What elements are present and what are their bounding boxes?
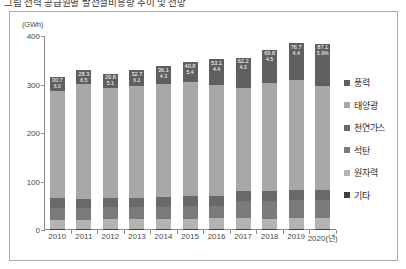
figure-caption-strip: 그림 전력 공급원별 발전설비용량 추이 및 전망 <box>0 0 406 9</box>
bar-segment-기타 <box>129 229 144 230</box>
bar-segment-원자력 <box>50 220 65 229</box>
x-tick-label: 2020(년) <box>308 232 338 243</box>
bar-segment-석탄 <box>156 207 171 220</box>
bar-stack: 53.14.4 <box>209 59 224 230</box>
legend-swatch-icon <box>344 170 350 176</box>
legend-item-천연가스[interactable]: 천연가스 <box>344 121 385 134</box>
bar-segment-원자력 <box>262 219 277 230</box>
bar-segment-태양광 <box>183 82 198 196</box>
legend-swatch-icon <box>344 80 350 86</box>
bar-segment-천연가스 <box>236 191 251 201</box>
y-tick-label: 300 <box>27 80 40 89</box>
bar-stack: 87.15.9% <box>315 44 330 230</box>
legend-swatch-icon <box>344 192 350 198</box>
bar-segment-기타 <box>236 229 251 230</box>
bar-segment-석탄 <box>289 200 304 218</box>
legend-item-기타[interactable]: 기타 <box>344 189 385 202</box>
bar-segment-풍력: 53.14.4 <box>209 59 224 85</box>
bar-segment-석탄 <box>262 201 277 219</box>
legend-swatch-icon <box>344 102 350 108</box>
bar-segment-풍력: 62.24.3 <box>236 58 251 88</box>
y-axis-unit-label: (GWh) <box>22 20 43 29</box>
legend-item-석탄[interactable]: 석탄 <box>344 144 385 157</box>
chart-figure: 그림 전력 공급원별 발전설비용량 추이 및 전망 (GWh) 01002003… <box>0 0 406 269</box>
bar-share-label: 6.5 <box>80 78 87 83</box>
bar-stack: 36.14.3 <box>156 66 171 230</box>
y-tick-mark <box>41 230 45 231</box>
bar-segment-기타 <box>289 229 304 230</box>
x-tick-mark <box>97 230 98 234</box>
legend-label: 석탄 <box>354 144 370 157</box>
bar-series-container: 30.76.028.36.529.85.132.76.136.14.340.85… <box>44 36 336 230</box>
bar-share-label: 4.3 <box>239 65 246 70</box>
bar-segment-기타 <box>209 229 224 230</box>
bar-segment-풍력: 76.74.4 <box>289 43 304 80</box>
y-tick-label: 400 <box>27 32 40 41</box>
x-tick-mark <box>124 230 125 234</box>
bar-share-label: 4.4 <box>213 67 220 72</box>
legend-label: 풍력 <box>354 76 370 89</box>
bar-stack: 29.85.1 <box>103 74 118 230</box>
bar-segment-풍력: 28.36.5 <box>76 70 91 84</box>
y-tick-label: 100 <box>27 177 40 186</box>
bar-segment-기타 <box>103 229 118 230</box>
chart-legend: 풍력태양광천연가스석탄원자력기타 <box>344 76 385 202</box>
bar-share-label: 6.0 <box>54 84 61 89</box>
legend-item-풍력[interactable]: 풍력 <box>344 76 385 89</box>
bar-segment-원자력 <box>103 219 118 229</box>
figure-caption: 그림 전력 공급원별 발전설비용량 추이 및 전망 <box>4 0 186 9</box>
x-tick-label: 2014 <box>155 232 173 241</box>
x-tick-label: 2015 <box>181 232 199 241</box>
bar-segment-원자력 <box>209 218 224 229</box>
bar-segment-천연가스 <box>103 198 118 208</box>
legend-swatch-icon <box>344 147 350 153</box>
legend-item-원자력[interactable]: 원자력 <box>344 166 385 179</box>
bar-stack: 69.84.5 <box>262 50 277 230</box>
bar-segment-석탄 <box>103 207 118 219</box>
bar-stack: 28.36.5 <box>76 70 91 230</box>
bar-segment-석탄 <box>183 206 198 219</box>
bar-segment-기타 <box>156 229 171 230</box>
bar-share-label: 6.1 <box>133 78 140 83</box>
bar-segment-태양광 <box>129 86 144 198</box>
x-tick-label: 2017 <box>234 232 252 241</box>
x-tick-label: 2011 <box>75 232 92 241</box>
bar-segment-원자력 <box>76 220 91 229</box>
legend-label: 기타 <box>354 189 370 202</box>
bar-segment-기타 <box>262 229 277 230</box>
x-tick-mark <box>177 230 178 234</box>
bar-segment-천연가스 <box>76 199 91 209</box>
bar-segment-태양광 <box>76 84 91 199</box>
bar-segment-풍력: 29.85.1 <box>103 74 118 88</box>
bar-segment-태양광 <box>50 91 65 198</box>
x-tick-label: 2019 <box>287 232 305 241</box>
legend-item-태양광[interactable]: 태양광 <box>344 99 385 112</box>
bar-segment-태양광 <box>315 86 330 191</box>
bar-segment-기타 <box>76 229 91 230</box>
x-tick-mark <box>150 230 151 234</box>
y-tick-label: 200 <box>27 129 40 138</box>
bar-stack: 62.24.3 <box>236 58 251 230</box>
bar-stack: 76.74.4 <box>289 43 304 230</box>
x-tick-mark <box>230 230 231 234</box>
y-tick-label: 0 <box>36 226 40 235</box>
bar-segment-원자력 <box>156 219 171 229</box>
bar-share-label: 5.4 <box>186 70 193 75</box>
bar-share-label: 4.5 <box>266 57 273 62</box>
x-tick-label: 2018 <box>261 232 279 241</box>
legend-label: 원자력 <box>354 166 377 179</box>
bar-segment-석탄 <box>236 201 251 219</box>
legend-label: 천연가스 <box>354 121 385 134</box>
bar-segment-태양광 <box>262 83 277 191</box>
bar-segment-천연가스 <box>183 196 198 206</box>
bar-segment-기타 <box>183 229 198 230</box>
bar-segment-원자력 <box>236 218 251 229</box>
bar-segment-천연가스 <box>156 197 171 207</box>
bar-segment-풍력: 36.14.3 <box>156 66 171 84</box>
bar-segment-석탄 <box>76 208 91 220</box>
bar-share-label: 5.1 <box>107 81 114 86</box>
bar-segment-천연가스 <box>289 190 304 200</box>
x-tick-label: 2010 <box>48 232 66 241</box>
x-tick-mark <box>71 230 72 234</box>
bar-segment-천연가스 <box>315 190 330 200</box>
